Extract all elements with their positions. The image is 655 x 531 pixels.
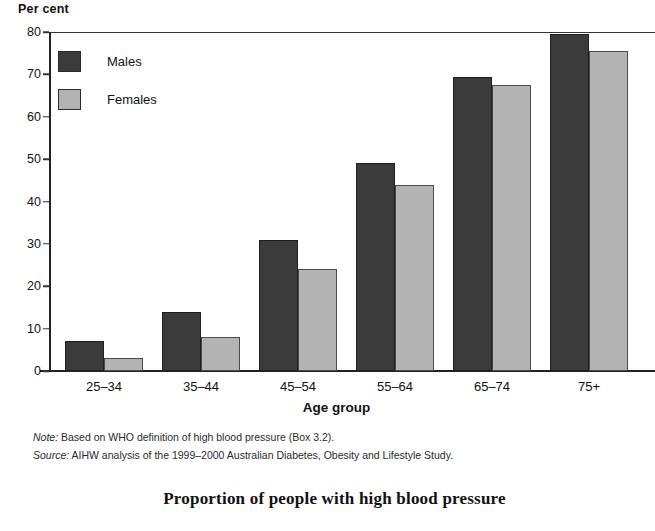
x-axis-tick-label: 65–74 <box>474 379 510 394</box>
note-text: Based on WHO definition of high blood pr… <box>58 431 334 443</box>
y-axis-tick-mark <box>43 286 49 288</box>
x-axis-tick-label: 25–34 <box>86 379 122 394</box>
x-axis-tick-label: 75+ <box>578 379 600 394</box>
x-axis-tick-label: 55–64 <box>377 379 413 394</box>
y-axis-tick-label: 10 <box>0 322 49 336</box>
figure-caption-text: Proportion of people with high blood pre… <box>163 489 505 508</box>
source-label: Source: <box>33 449 69 461</box>
y-axis-tick-label: 60 <box>0 110 49 124</box>
note-label: Note: <box>33 431 58 443</box>
bar-males-45-54 <box>259 240 298 371</box>
bar-males-55-64 <box>356 163 395 371</box>
source-text: AIHW analysis of the 1999–2000 Australia… <box>69 449 453 461</box>
note-line: Note: Based on WHO definition of high bl… <box>33 428 648 446</box>
footnotes: Note: Based on WHO definition of high bl… <box>33 428 648 464</box>
y-axis-tick-mark <box>43 370 49 372</box>
source-line: Source: AIHW analysis of the 1999–2000 A… <box>33 446 648 464</box>
bar-males-75+ <box>550 34 589 371</box>
x-axis-tick-label: 45–54 <box>280 379 316 394</box>
legend-item-females: Females <box>58 80 157 118</box>
y-axis-tick-label: 0 <box>0 364 49 378</box>
y-axis-tick-label: 70 <box>0 67 49 81</box>
figure-caption: Proportion of people with high blood pre… <box>0 489 655 509</box>
y-axis-tick-mark <box>43 201 49 203</box>
y-axis-tick-mark <box>43 31 49 33</box>
bar-females-35-44 <box>201 337 240 371</box>
legend-label-males: Males <box>107 54 142 69</box>
y-axis-tick-mark <box>43 328 49 330</box>
bar-females-75+ <box>589 51 628 371</box>
x-axis-title-text: Age group <box>303 400 371 415</box>
y-axis-tick-label: 30 <box>0 237 49 251</box>
legend: Males Females <box>58 42 157 118</box>
legend-item-males: Males <box>58 42 157 80</box>
y-axis-tick-label: 50 <box>0 152 49 166</box>
bar-males-65-74 <box>453 77 492 372</box>
y-axis-tick-mark <box>43 243 49 245</box>
x-axis-title: Age group <box>0 400 655 415</box>
y-axis-tick-label: 80 <box>0 25 49 39</box>
x-axis-tick-label: 35–44 <box>183 379 219 394</box>
bar-males-35-44 <box>162 312 201 371</box>
legend-swatch-males-icon <box>58 51 81 72</box>
legend-label-females: Females <box>107 92 157 107</box>
bar-females-65-74 <box>492 85 531 371</box>
legend-swatch-females-icon <box>58 89 81 110</box>
y-axis-tick-label: 20 <box>0 279 49 293</box>
bar-females-25-34 <box>104 358 143 371</box>
y-axis-tick-label: 40 <box>0 195 49 209</box>
y-axis-unit-label: Per cent <box>18 2 69 16</box>
y-axis-tick-mark <box>43 74 49 76</box>
y-axis-tick-mark <box>43 158 49 160</box>
bar-males-25-34 <box>65 341 104 371</box>
y-axis-tick-mark <box>43 116 49 118</box>
bar-females-55-64 <box>395 185 434 371</box>
bar-females-45-54 <box>298 269 337 371</box>
